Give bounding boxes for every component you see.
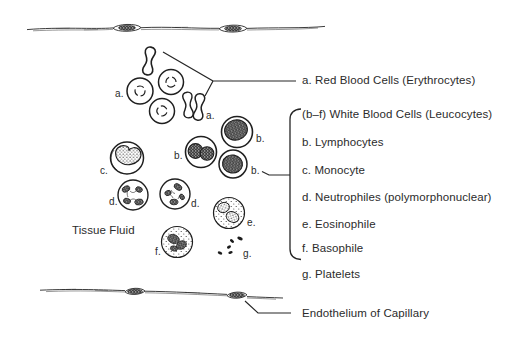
neutrophile-cell — [118, 180, 148, 210]
marker-neutrophile-1: d. — [109, 196, 118, 207]
endothelial-cell-nucleus — [113, 24, 141, 31]
capillary-wall-line — [27, 26, 325, 29]
endothelium-label: Endothelium of Capillary — [302, 307, 429, 320]
rbc-side-view — [182, 92, 193, 118]
marker-lymphocyte-2: b. — [174, 150, 183, 161]
lymphocyte-cell — [219, 150, 247, 178]
marker-eosinophile: e. — [247, 217, 256, 228]
marker-neutrophile-2: d. — [191, 198, 200, 209]
legend-monocyte: c. Monocyte — [302, 164, 365, 177]
legend-lymphocytes: b. Lymphocytes — [302, 136, 384, 149]
legend-eosinophile: e. Eosinophile — [302, 218, 376, 231]
legend-neutrophiles: d. Neutrophiles (polymorphonuclear) — [302, 191, 492, 204]
endothelial-cell-nucleus — [219, 25, 247, 32]
marker-lymphocyte-1: b. — [256, 133, 265, 144]
endothelial-cell-nucleus — [125, 288, 145, 294]
legend-platelets: g. Platelets — [302, 268, 360, 281]
bracket-tick — [262, 172, 290, 176]
rbc-face-view — [159, 70, 184, 95]
rbc-side-view — [193, 93, 205, 120]
rbc-side-view — [142, 46, 156, 75]
basophile-cell — [162, 227, 193, 258]
eosinophile-cell — [214, 198, 245, 229]
monocyte-cell — [111, 142, 144, 174]
rbc-face-view — [150, 99, 175, 124]
blood-cells-figure: a. a. b. b. b. c. d. d. e. f. g. Tissue … — [0, 0, 510, 339]
legend-basophile: f. Basophile — [302, 242, 363, 255]
lymphocyte-cell — [222, 117, 253, 148]
pointer-line-endothelium — [245, 301, 291, 313]
neutrophile-cell — [160, 179, 190, 209]
capillary-wall-bottom — [40, 288, 283, 299]
marker-rbc-side: a. — [206, 110, 215, 121]
pointer-line-rbc — [163, 52, 296, 96]
legend-red-blood-cells: a. Red Blood Cells (Erythrocytes) — [302, 74, 475, 87]
tissue-fluid-label: Tissue Fluid — [72, 224, 135, 237]
red-blood-cells-group — [127, 46, 205, 123]
platelets-group — [217, 236, 243, 255]
marker-rbc-face: a. — [115, 88, 124, 99]
rbc-face-view — [127, 78, 153, 104]
marker-monocyte: c. — [100, 165, 108, 176]
marker-platelets: g. — [243, 248, 252, 259]
lymphocyte-cell — [186, 137, 217, 168]
capillary-wall-top — [27, 24, 325, 32]
endothelial-cell-nucleus — [227, 292, 247, 298]
marker-basophile: f. — [155, 246, 161, 257]
marker-lymphocyte-3: b. — [251, 165, 260, 176]
wbc-legend-bracket — [262, 109, 301, 260]
legend-white-blood-cells: (b–f) White Blood Cells (Leucocytes) — [302, 108, 492, 121]
